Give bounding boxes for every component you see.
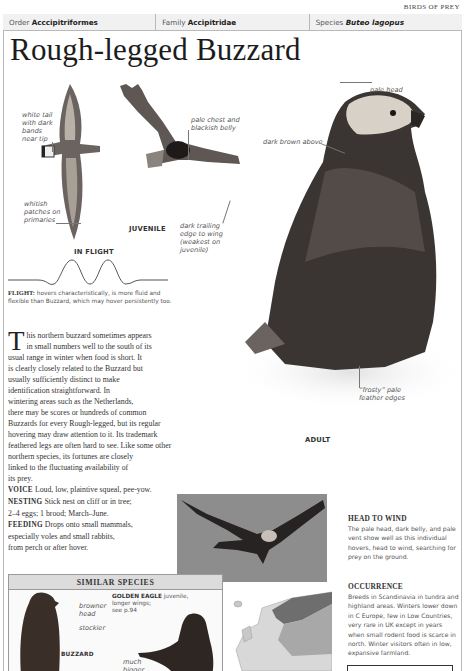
leader-line — [340, 82, 372, 83]
label-much-bigger: much bigger — [123, 658, 144, 671]
species-label: Species — [316, 18, 344, 27]
label-pale-head: pale head — [370, 86, 403, 94]
order-label: Order — [9, 18, 29, 27]
leader-line — [52, 142, 53, 152]
buzzard-photo — [15, 589, 65, 671]
family-label: Family — [162, 18, 185, 27]
label-browner-head: browner head — [79, 602, 106, 618]
order-value: Acccipitriformes — [32, 18, 98, 27]
hovering-bird-icon — [177, 494, 327, 582]
family-value: Accipitridae — [188, 18, 236, 27]
hovering-bird-photo — [177, 494, 327, 582]
flight-note: FLIGHT: hovers characteristically, is mo… — [8, 289, 173, 305]
label-dark-brown-above: dark brown above — [263, 138, 323, 146]
golden-eagle-photo — [134, 611, 224, 671]
label-frosty-feather-edges: “frosty” pale feather edges — [359, 386, 405, 402]
occurrence-heading: OCCURRENCE — [348, 582, 460, 591]
taxonomy-species: Species Buteo lagopus — [310, 14, 462, 30]
page-title: Rough-legged Buzzard — [10, 32, 301, 68]
label-whitish-patches: whitish patches on primaries — [24, 200, 60, 224]
similar-species-heading: SIMILAR SPECIES — [9, 575, 222, 590]
head-to-wind-heading: HEAD TO WIND — [348, 514, 460, 523]
map-key-box — [347, 665, 453, 671]
occurrence-body: Breeds in Scandinavia in tundra and high… — [348, 592, 460, 658]
distribution-map — [232, 590, 332, 671]
species-value: Buteo lagopus — [346, 18, 404, 27]
adult-bird-photo — [225, 82, 460, 412]
leader-line — [56, 223, 81, 224]
fact-voice: VOICE Loud, low, plaintive squeal, pee-y… — [8, 484, 171, 496]
label-white-tail: white tail with dark bands near tip — [22, 111, 53, 143]
occurrence-section: OCCURRENCE Breeds in Scandinavia in tund… — [348, 582, 460, 658]
fact-nesting: NESTING Stick nest on cliff or in tree; — [8, 496, 171, 508]
intro-text: T his northern buzzard sometimes appears… — [8, 330, 171, 553]
leader-line — [188, 130, 189, 160]
taxonomy-bar: Order Acccipitriformes Family Accipitrid… — [3, 14, 462, 31]
taxonomy-family: Family Accipitridae — [156, 14, 309, 30]
head-to-wind-section: HEAD TO WIND The pale head, dark belly, … — [348, 514, 460, 562]
flight-pattern-wave-icon — [8, 258, 168, 288]
leader-line — [359, 366, 360, 388]
caption-buzzard: BUZZARD — [61, 651, 94, 657]
dropcap: T — [8, 332, 25, 351]
label-stockier: stockier — [79, 624, 105, 632]
flight-note-heading: FLIGHT: — [8, 289, 35, 296]
caption-juvenile: JUVENILE — [129, 225, 166, 233]
taxonomy-order: Order Acccipitriformes — [3, 14, 156, 30]
section-tag: BIRDS OF PREY — [404, 3, 460, 11]
similar-species-box: SIMILAR SPECIES browner head stockier BU… — [8, 574, 223, 671]
fact-feeding: FEEDING Drops onto small mammals, — [8, 519, 171, 531]
label-dark-trailing-edge: dark trailing edge to wing (weakest on j… — [180, 222, 223, 254]
caption-in-flight: IN FLIGHT — [74, 248, 114, 256]
caption-adult: ADULT — [305, 436, 330, 444]
head-to-wind-body: The pale head, dark belly, and pale vent… — [348, 524, 460, 562]
